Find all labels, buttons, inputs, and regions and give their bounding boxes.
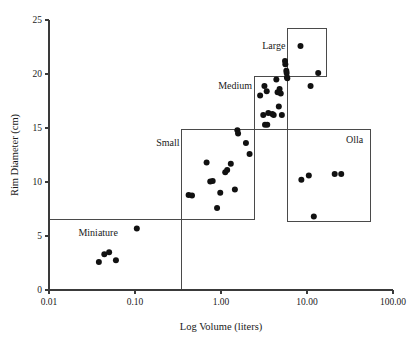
y-tick-label: 5 <box>37 231 42 241</box>
group-label-large: Large <box>262 40 286 51</box>
data-point <box>228 161 234 167</box>
group-annotation-labels: MiniatureSmallMediumLargeOlla <box>78 40 363 238</box>
x-tick-label: 10.00 <box>296 297 318 307</box>
data-point <box>311 214 317 220</box>
data-point <box>243 140 249 146</box>
data-point <box>217 190 223 196</box>
data-point <box>308 83 314 89</box>
data-point <box>271 112 277 118</box>
data-point <box>264 122 270 128</box>
y-tick-label: 0 <box>37 285 42 295</box>
data-point <box>224 167 230 173</box>
data-point <box>338 171 344 177</box>
y-tick-label: 15 <box>33 123 43 133</box>
data-point <box>204 160 210 166</box>
data-point <box>257 93 263 99</box>
y-tick-label: 10 <box>33 177 43 187</box>
data-point <box>134 225 140 231</box>
data-point <box>306 173 312 179</box>
group-label-olla: Olla <box>346 134 364 145</box>
group-box-medium <box>254 77 287 130</box>
data-point <box>189 193 195 199</box>
data-point <box>284 75 290 81</box>
data-point <box>247 151 253 157</box>
group-boxes <box>49 29 371 290</box>
x-tick-label: 1.00 <box>213 297 230 307</box>
data-point <box>273 76 279 82</box>
x-tick-label: 100.00 <box>380 297 406 307</box>
scatter-plot-figure: 05101520250.010.101.0010.00100.00 Miniat… <box>0 0 415 339</box>
data-point <box>96 259 102 265</box>
x-axis-title: Log Volume (liters) <box>180 321 263 333</box>
group-label-small: Small <box>156 137 180 148</box>
y-tick-label: 20 <box>33 69 43 79</box>
group-label-medium: Medium <box>218 80 252 91</box>
data-point <box>297 43 303 49</box>
data-point <box>298 177 304 183</box>
axes-group <box>49 20 393 290</box>
plot-canvas: 05101520250.010.101.0010.00100.00 Miniat… <box>0 0 415 339</box>
group-label-miniature: Miniature <box>78 227 118 238</box>
y-tick-label: 25 <box>33 15 43 25</box>
data-point <box>106 249 112 255</box>
group-box-large <box>288 29 327 77</box>
y-axis-title: Rim Diameter (cm) <box>9 113 21 196</box>
data-point <box>315 70 321 76</box>
data-point <box>276 103 282 109</box>
data-point <box>210 178 216 184</box>
tick-labels: 05101520250.010.101.0010.00100.00 <box>33 15 407 307</box>
data-point <box>332 171 338 177</box>
data-point <box>278 90 284 96</box>
data-point <box>264 88 270 94</box>
data-point <box>282 61 288 67</box>
data-point <box>235 130 241 136</box>
data-point <box>232 187 238 193</box>
data-point <box>279 112 285 118</box>
data-point <box>214 205 220 211</box>
data-point <box>261 83 267 89</box>
data-point <box>113 257 119 263</box>
x-tick-label: 0.01 <box>41 297 58 307</box>
x-tick-label: 0.10 <box>127 297 144 307</box>
tick-marks <box>45 20 393 294</box>
